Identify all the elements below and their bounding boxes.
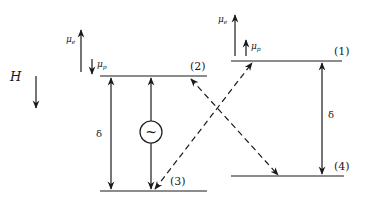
energy-level-diagram: H μe μp μe μp (2) (3) (1) (4) δ ~ δ [0,0,365,208]
oscillator-transition: ~ [140,78,162,189]
right-mu-p-label: μp [251,41,261,53]
field-label: H [9,69,22,84]
left-mu-e-label: μe [66,34,76,45]
oscillator-symbol: ~ [145,124,157,140]
level-2-label: (2) [190,60,206,73]
left-mu-p-label: μp [97,59,107,71]
left-moments: μe μp [66,30,107,74]
right-mu-e-label: μe [218,14,228,25]
dashed-transition-2-to-4 [191,79,278,175]
right-delta-label: δ [328,109,334,120]
left-gap-arrow: δ [96,78,111,189]
dashed-transition-3-to-1 [155,63,252,189]
magnetic-field-indicator: H [9,69,36,108]
level-3-label: (3) [170,175,186,188]
level-4-label: (4) [334,160,350,173]
level-1-label: (1) [334,45,350,58]
right-gap-arrow: δ [322,63,334,174]
right-moments: μe μp [218,14,261,56]
left-delta-label: δ [96,128,102,139]
